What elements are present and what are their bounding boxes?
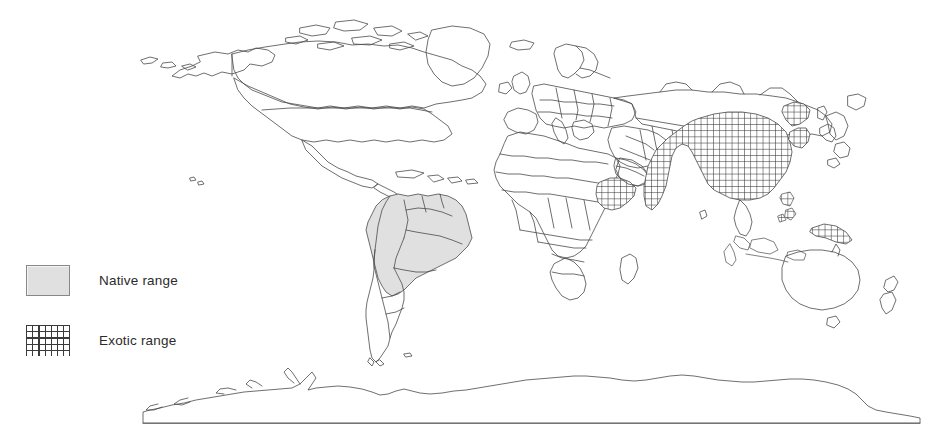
exotic-range-new-guinea bbox=[810, 224, 852, 244]
region-north-america bbox=[141, 20, 490, 200]
exotic-range-korea bbox=[789, 128, 810, 148]
exotic-range-swatch bbox=[26, 325, 70, 356]
region-antarctica bbox=[143, 368, 920, 423]
exotic-range-asia bbox=[644, 112, 792, 210]
distribution-map-figure: Native range Exotic range bbox=[0, 0, 931, 443]
legend-item-exotic: Exotic range bbox=[26, 322, 226, 358]
exotic-range-label: Exotic range bbox=[99, 333, 176, 348]
exotic-range-manchuria bbox=[782, 102, 810, 126]
region-oceania bbox=[782, 244, 898, 328]
region-south-america bbox=[366, 194, 472, 366]
native-range-swatch bbox=[26, 265, 70, 296]
map-legend: Native range Exotic range bbox=[26, 262, 226, 382]
legend-item-native: Native range bbox=[26, 262, 226, 298]
exotic-range-east-africa bbox=[596, 178, 636, 210]
region-africa bbox=[494, 132, 650, 300]
exotic-range-philippines bbox=[778, 192, 796, 222]
region-indonesia bbox=[724, 236, 806, 266]
region-asia bbox=[608, 82, 866, 266]
map-landmasses bbox=[141, 20, 920, 423]
native-range-south-america bbox=[366, 194, 472, 296]
region-europe bbox=[499, 40, 636, 144]
native-range-label: Native range bbox=[99, 273, 178, 288]
